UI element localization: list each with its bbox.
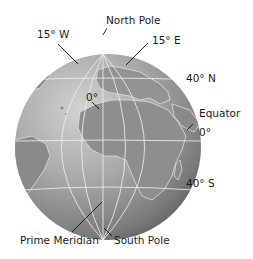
lon-15w-label: 15° W <box>37 28 70 40</box>
south-pole-label: South Pole <box>114 234 170 246</box>
north-pole-label: North Pole <box>106 14 160 26</box>
prime-meridian-label: Prime Meridian <box>20 234 99 246</box>
north-pole-leader <box>103 28 107 35</box>
equator-label: Equator <box>199 107 241 119</box>
island <box>60 106 64 110</box>
equator-degree-label: 0° <box>199 126 211 138</box>
globe-diagram: North Pole 15° W 15° E 0° 40° N Equator … <box>0 0 253 259</box>
lon-15e-label: 15° E <box>152 34 181 46</box>
lat-40s-label: 40° S <box>186 177 215 189</box>
origin-label: 0° <box>86 91 98 103</box>
lat-40n-label: 40° N <box>186 72 216 84</box>
lon-15w-leader <box>58 44 78 64</box>
